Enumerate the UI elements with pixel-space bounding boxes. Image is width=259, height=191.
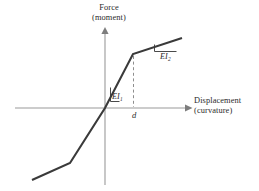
ei1-label-subscript: 1 bbox=[120, 96, 123, 102]
x-axis-label-line2: (curvature) bbox=[194, 106, 259, 116]
yield-displacement-label: d bbox=[132, 110, 136, 120]
y-axis-label-line1: Force bbox=[79, 3, 139, 13]
y-axis-label-line2: (moment) bbox=[79, 13, 139, 23]
x-axis-label-line1: Displacement bbox=[194, 96, 259, 106]
ei2-label-subscript: 2 bbox=[168, 56, 171, 62]
ei2-label-text: EI bbox=[160, 52, 168, 61]
ei2-label: EI2 bbox=[160, 52, 170, 61]
x-axis-arrowhead bbox=[185, 104, 193, 111]
x-axis-label: Displacement (curvature) bbox=[194, 96, 259, 117]
ei1-label: EI1 bbox=[112, 92, 122, 101]
ei1-label-text: EI bbox=[112, 92, 120, 101]
y-axis-label: Force (moment) bbox=[79, 3, 139, 24]
force-displacement-figure: Force (moment) Displacement (curvature) … bbox=[0, 0, 259, 191]
y-axis-arrowhead bbox=[101, 27, 108, 34]
